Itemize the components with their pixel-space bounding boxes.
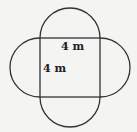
bottom-semicircle [40,97,100,127]
top-side-label: 4 m [61,40,84,53]
left-side-label: 4 m [43,62,66,75]
square-semicircles-diagram: 4 m 4 m [0,0,137,132]
right-semicircle [100,38,130,97]
top-semicircle [40,8,100,38]
left-semicircle [10,38,40,97]
